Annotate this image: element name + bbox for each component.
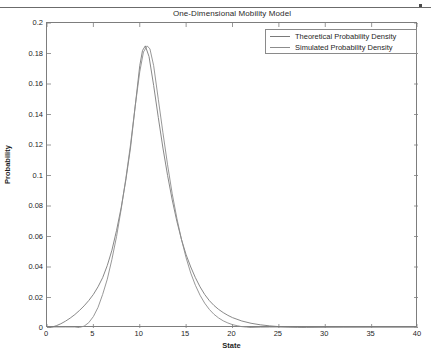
y-tick-label: 0.2 [1,18,43,27]
plot-svg [47,23,418,328]
legend-label-theoretical: Theoretical Probability Density [295,32,396,41]
x-tick-label: 10 [135,329,143,338]
y-tick-label: 0.16 [1,79,43,88]
y-tick-label: 0.14 [1,109,43,118]
chart-figure: One-Dimensional Mobility Model 00.020.04… [0,0,431,361]
y-tick-label: 0 [1,323,43,332]
y-tick-label: 0.02 [1,292,43,301]
y-axis-label: Probability [3,125,12,205]
x-tick-label: 30 [320,329,328,338]
x-tick-label: 15 [181,329,189,338]
legend-item-theoretical: Theoretical Probability Density [270,31,396,42]
x-tick-label: 5 [90,329,94,338]
x-tick-label: 40 [413,329,421,338]
x-tick-label: 35 [366,329,374,338]
y-tick-label: 0.04 [1,262,43,271]
x-tick-label: 20 [227,329,235,338]
x-tick-label: 0 [44,329,48,338]
legend-label-simulated: Simulated Probability Density [295,43,393,52]
y-tick-label: 0.18 [1,48,43,57]
chart-legend: Theoretical Probability Density Simulate… [265,29,417,54]
plot-area [46,22,417,327]
legend-swatch-simulated [270,47,290,48]
chart-title: One-Dimensional Mobility Model [46,9,418,18]
x-tick-label: 25 [274,329,282,338]
legend-swatch-theoretical [270,36,290,37]
y-tick-label: 0.06 [1,231,43,240]
legend-item-simulated: Simulated Probability Density [270,42,393,53]
x-axis-label: State [46,341,417,350]
